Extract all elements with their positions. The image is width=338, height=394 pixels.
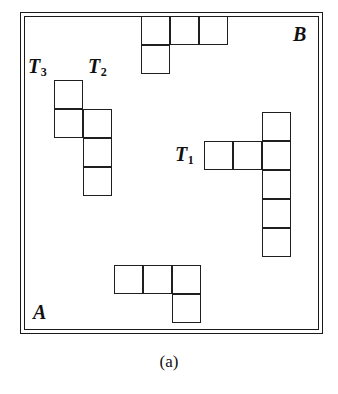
piece-label-t1: T1	[175, 144, 194, 166]
corner-label-b: B	[293, 24, 306, 44]
piece-label-subscript: 1	[188, 153, 194, 167]
polyomino-cell	[114, 265, 143, 294]
polyomino-cell	[199, 16, 228, 45]
figure-container: T3T2T1BA (a)	[0, 0, 338, 394]
piece-label-t2: T2	[88, 56, 107, 78]
piece-label-base: T	[28, 55, 40, 77]
polyomino-cell	[262, 112, 291, 141]
polyomino-cell	[262, 228, 291, 257]
polyomino-cell	[262, 170, 291, 199]
polyomino-cell	[83, 138, 112, 167]
polyomino-cell	[204, 141, 233, 170]
piece-label-subscript: 3	[41, 65, 47, 79]
polyomino-cell	[172, 265, 201, 294]
polyomino-cell	[141, 45, 170, 74]
polyomino-cell	[262, 199, 291, 228]
piece-label-subscript: 2	[101, 65, 107, 79]
polyomino-cell	[170, 16, 199, 45]
polyomino-cell	[233, 141, 262, 170]
figure-caption: (a)	[0, 352, 338, 372]
polyomino-cell	[143, 265, 172, 294]
corner-label-a: A	[33, 302, 46, 322]
polyomino-cell	[141, 16, 170, 45]
piece-label-base: T	[88, 55, 100, 77]
polyomino-cell	[83, 167, 112, 196]
piece-label-t3: T3	[28, 56, 47, 78]
polyomino-cell	[54, 109, 83, 138]
polyomino-cell	[172, 294, 201, 323]
polyomino-cell	[262, 141, 291, 170]
polyomino-cell	[83, 109, 112, 138]
piece-label-base: T	[175, 143, 187, 165]
polyomino-cell	[54, 80, 83, 109]
